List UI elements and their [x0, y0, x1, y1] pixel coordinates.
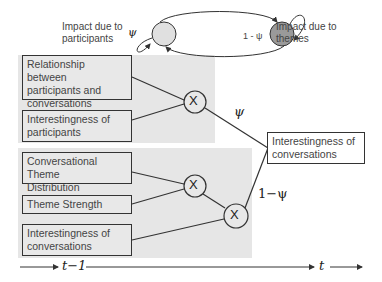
label-line: Impact due to	[62, 21, 123, 33]
label-line: Impact due to	[276, 21, 337, 33]
box-line: Interestingness of	[272, 135, 360, 148]
theme-distribution-box: Conversational Theme Distribution	[22, 152, 132, 184]
timeline-curr: t	[319, 258, 324, 273]
box-line: Interestingness of	[27, 227, 127, 240]
box-line: Relationship between	[27, 58, 127, 84]
box-line: conversations	[272, 148, 360, 161]
self-loop-one-minus-psi: 1 - ψ	[243, 30, 262, 42]
participants-impact-label: Impact due to participants	[62, 21, 123, 45]
box-line: conversations	[27, 240, 127, 253]
themes-impact-label: Impact due to themes	[276, 21, 337, 45]
timeline-prev: t−1	[62, 258, 86, 273]
self-loop-psi: ψ	[128, 26, 137, 39]
upper-weight-psi: ψ	[234, 104, 244, 119]
box-line: participants and	[27, 84, 127, 97]
box-line: Distribution	[27, 181, 127, 194]
output-interest-box: Interestingness of conversations	[267, 132, 365, 164]
multiplier-upper: X	[189, 95, 198, 107]
box-line: Interestingness of	[27, 113, 127, 126]
relationship-box: Relationship between participants and co…	[22, 55, 132, 100]
theme-strength-box: Theme Strength	[22, 195, 132, 214]
box-line: Theme Strength	[27, 198, 127, 211]
multiplier-lower-1: X	[189, 179, 198, 191]
box-line: Conversational Theme	[27, 155, 127, 181]
multiplier-lower-2: X	[230, 209, 239, 221]
box-line: participants	[27, 126, 127, 139]
box-line: conversations	[27, 97, 127, 110]
lower-weight-one-minus-psi: 1−ψ	[258, 186, 287, 201]
prev-conversation-interest-box: Interestingness of conversations	[22, 224, 132, 256]
label-line: participants	[62, 33, 123, 45]
label-line: themes	[276, 33, 337, 45]
participant-interest-box: Interestingness of participants	[22, 110, 132, 142]
